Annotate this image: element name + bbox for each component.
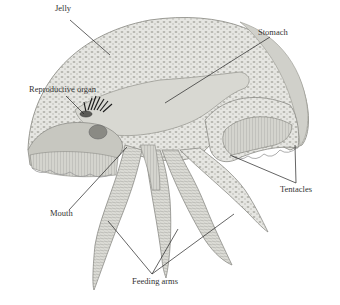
subumbrella-right [205, 97, 299, 161]
label-tentacles: Tentacles [280, 184, 312, 194]
feeding-arms [93, 145, 268, 290]
label-reproductive-organ: Reproductive organ [29, 84, 96, 94]
label-feeding-arms: Feeding arms [132, 276, 178, 286]
label-mouth: Mouth [50, 208, 73, 218]
tentacles-leader-a [230, 155, 296, 183]
jellyfish-diagram: Jelly Stomach Reproductive organ Mouth T… [0, 0, 340, 305]
label-stomach: Stomach [258, 27, 288, 37]
jellyfish-illustration [0, 0, 340, 305]
feeding-arms-leader-a [108, 221, 152, 274]
label-jelly: Jelly [55, 3, 71, 13]
tentacles-leader-b [295, 145, 296, 183]
